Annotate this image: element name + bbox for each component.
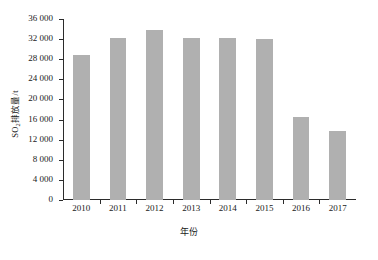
y-axis-tick: 16 000 [59, 120, 63, 121]
x-axis-label: 2016 [292, 203, 310, 213]
bar [110, 38, 127, 200]
x-axis-tick [136, 200, 137, 204]
y-axis-tick-label: 32 000 [28, 33, 53, 43]
y-axis-tick: 8 000 [59, 160, 63, 161]
bar [293, 117, 310, 200]
y-axis-title-main: 排放量/t [10, 90, 20, 123]
y-axis-tick-label: 28 000 [28, 53, 53, 63]
x-axis-title: 年份 [0, 225, 378, 238]
bar [146, 30, 163, 200]
y-axis-tick: 32 000 [59, 39, 63, 40]
plot-area: 04 0008 00012 00016 00020 00024 00028 00… [63, 19, 356, 200]
x-axis-label: 2013 [182, 203, 200, 213]
y-axis-tick-label: 8 000 [33, 154, 53, 164]
y-axis-tick-label: 4 000 [33, 174, 53, 184]
x-axis-tick [283, 200, 284, 204]
y-axis-tick: 24 000 [59, 79, 63, 80]
y-axis-tick-label: 16 000 [28, 114, 53, 124]
x-axis-tick [246, 200, 247, 204]
y-axis-tick-label: 12 000 [28, 134, 53, 144]
y-axis-tick: 0 [59, 200, 63, 201]
y-axis-tick-label: 24 000 [28, 73, 53, 83]
y-axis-title-subscript: 2 [14, 123, 21, 126]
x-axis-tick [100, 200, 101, 204]
y-axis-title-prefix: SO [10, 126, 20, 137]
y-axis-line [63, 19, 64, 200]
y-axis-tick-label: 36 000 [28, 13, 53, 23]
y-axis-tick-label: 20 000 [28, 93, 53, 103]
x-axis-label: 2017 [329, 203, 347, 213]
so2-emissions-bar-chart: SO2排放量/t 04 0008 00012 00016 00020 00024… [0, 0, 378, 260]
y-axis-tick: 4 000 [59, 180, 63, 181]
bar [73, 55, 90, 200]
x-axis-tick [210, 200, 211, 204]
bar [329, 131, 346, 200]
y-axis-tick: 12 000 [59, 140, 63, 141]
x-axis-label: 2012 [146, 203, 164, 213]
y-axis-tick: 20 000 [59, 99, 63, 100]
bar [183, 38, 200, 200]
y-axis-tick: 28 000 [59, 59, 63, 60]
x-axis-label: 2011 [109, 203, 127, 213]
x-axis-label: 2015 [255, 203, 273, 213]
x-axis-tick [173, 200, 174, 204]
x-axis-label: 2014 [219, 203, 237, 213]
y-axis-tick-label: 0 [49, 194, 54, 204]
x-axis-tick [319, 200, 320, 204]
y-axis-tick: 36 000 [59, 19, 63, 20]
y-axis-title: SO2排放量/t [8, 64, 20, 164]
x-axis-label: 2010 [72, 203, 90, 213]
bar [219, 38, 236, 200]
bar [256, 39, 273, 200]
